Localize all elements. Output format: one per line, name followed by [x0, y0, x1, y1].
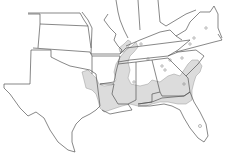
range-map — [0, 0, 229, 161]
range-shading — [82, 40, 202, 112]
